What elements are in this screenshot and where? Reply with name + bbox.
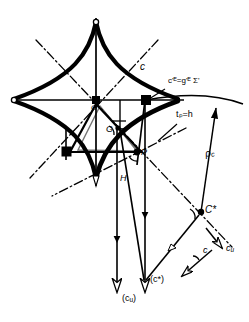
label-point-R: R	[119, 127, 126, 136]
label-vector-c-star-projection: (c*)	[150, 275, 164, 284]
label-point-O: O	[91, 104, 97, 112]
label-tangent-annotation: tₚ=h	[176, 110, 193, 119]
diagram-canvas: c c'ᴱ=g'ᴱ Σ' tₚ=h O G R P H C* ρc (c*) (…	[0, 0, 249, 322]
label-vector-cu: cu	[226, 244, 234, 254]
label-point-P: P	[141, 148, 147, 157]
free-vectors	[182, 228, 222, 276]
radius-rho-line	[201, 108, 216, 212]
label-rho-c: ρc	[204, 147, 215, 159]
label-sigma-annotation: c'ᴱ=g'ᴱ Σ'	[168, 77, 199, 85]
label-vector-c: c	[203, 246, 208, 255]
cu-proj-open: (c	[122, 293, 130, 303]
cu-subscript: u	[231, 246, 235, 253]
construction-figure	[0, 0, 249, 322]
label-point-H: H	[120, 174, 127, 183]
cu-proj-close: )	[133, 293, 136, 303]
label-vector-cu-projection: (cu)	[122, 294, 136, 304]
label-curve-c: c	[140, 62, 145, 72]
label-point-c-star: C*	[205, 205, 216, 215]
label-point-G: G	[106, 125, 113, 134]
